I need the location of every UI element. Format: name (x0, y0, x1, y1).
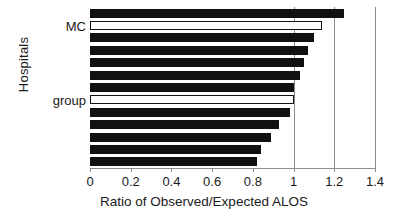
x-tick-mark (90, 168, 91, 172)
bar-hospital-13 (90, 157, 257, 166)
category-label-column: MCgroup (0, 0, 86, 221)
bar-row (90, 71, 300, 80)
bar-row (90, 133, 271, 142)
bar-hospital-9 (90, 108, 290, 117)
bar-row (90, 108, 290, 117)
bar-hospital-11 (90, 133, 271, 142)
bar-hospital-10 (90, 120, 279, 129)
x-axis-title: Ratio of Observed/Expected ALOS (0, 194, 408, 209)
bar-hospital-7 (90, 83, 294, 92)
category-label-group: group (53, 92, 86, 107)
bar-row (90, 21, 322, 30)
chart-figure: Hospitals MCgroup 00.20.40.60.811.21.4 R… (0, 0, 408, 221)
bar-MC (90, 21, 322, 30)
x-axis-line (90, 168, 375, 169)
x-tick-label: 0.2 (122, 174, 140, 189)
bar-row (90, 58, 304, 67)
bar-hospital-5 (90, 58, 304, 67)
bar-row (90, 95, 294, 104)
bar-row (90, 9, 344, 18)
bar-hospital-1 (90, 9, 344, 18)
bar-row (90, 33, 314, 42)
category-label-mc: MC (66, 18, 86, 33)
x-tick-mark (212, 168, 213, 172)
x-tick-label: 0.8 (244, 174, 262, 189)
bar-row (90, 83, 294, 92)
plot-area: 00.20.40.60.811.21.4 (90, 7, 375, 168)
x-tick-mark (375, 168, 376, 172)
x-tick-mark (171, 168, 172, 172)
bar-hospital-6 (90, 71, 300, 80)
x-tick-mark (131, 168, 132, 172)
x-tick-mark (294, 168, 295, 172)
bar-hospital-4 (90, 46, 308, 55)
x-tick-mark (334, 168, 335, 172)
bar-hospital-12 (90, 145, 261, 154)
x-tick-label: 1 (290, 174, 297, 189)
bar-row (90, 120, 279, 129)
gridline-1-4 (375, 7, 376, 168)
x-tick-label: 0.6 (203, 174, 221, 189)
x-tick-label: 0.4 (162, 174, 180, 189)
bar-hospital-3 (90, 33, 314, 42)
x-tick-label: 1.2 (325, 174, 343, 189)
x-tick-label: 1.4 (366, 174, 384, 189)
bar-row (90, 145, 261, 154)
x-tick-label: 0 (86, 174, 93, 189)
bar-group (90, 95, 294, 104)
bar-row (90, 157, 257, 166)
gridline-1-2 (334, 7, 335, 168)
gridline-1 (294, 7, 295, 168)
bar-row (90, 46, 308, 55)
x-tick-mark (253, 168, 254, 172)
